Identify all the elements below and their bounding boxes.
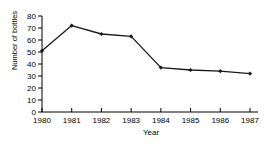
y-tick-label: 40 xyxy=(27,60,36,69)
x-tick-label: 1986 xyxy=(211,116,229,125)
data-point-marker xyxy=(218,69,222,73)
x-tick-label-group: 19801981198219831984198519861987 xyxy=(33,116,259,125)
plot-area: 01020304050607080 1980198119821983198419… xyxy=(0,0,267,147)
x-tick-label: 1987 xyxy=(241,116,259,125)
x-tick-mark-group xyxy=(42,108,250,112)
data-point-marker xyxy=(248,72,252,76)
data-point-marker xyxy=(99,32,103,36)
y-tick-label-group: 01020304050607080 xyxy=(27,12,36,117)
x-tick-label: 1983 xyxy=(122,116,140,125)
data-point-marker xyxy=(188,68,192,72)
y-tick-label: 30 xyxy=(27,72,36,81)
x-tick-label: 1980 xyxy=(33,116,51,125)
x-tick-label: 1985 xyxy=(182,116,200,125)
y-tick-label: 60 xyxy=(27,36,36,45)
x-tick-label: 1982 xyxy=(93,116,111,125)
y-tick-label: 20 xyxy=(27,84,36,93)
data-series-line xyxy=(42,26,250,74)
x-tick-label: 1981 xyxy=(63,116,81,125)
y-tick-label: 80 xyxy=(27,12,36,21)
y-tick-label: 70 xyxy=(27,24,36,33)
data-point-markers xyxy=(40,24,252,76)
line-chart-figure: Number of bottles Year 01020304050607080… xyxy=(0,0,267,147)
x-tick-label: 1984 xyxy=(152,116,170,125)
y-tick-label: 50 xyxy=(27,48,36,57)
y-tick-label: 10 xyxy=(27,96,36,105)
y-tick-mark-group xyxy=(38,16,42,112)
